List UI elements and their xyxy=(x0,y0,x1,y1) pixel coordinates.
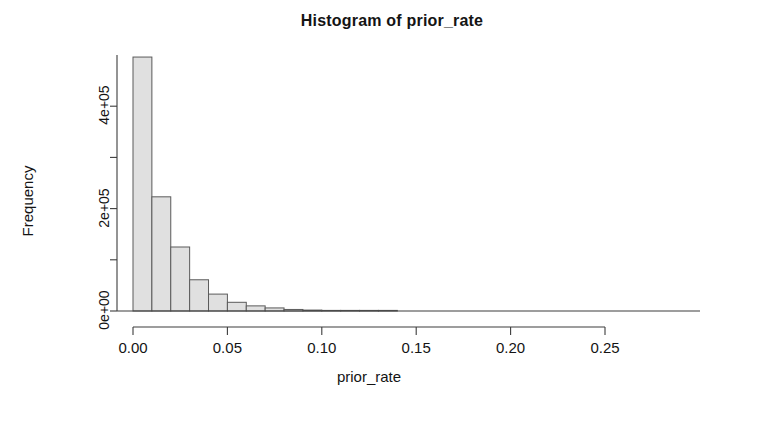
x-tick-label: 0.15 xyxy=(376,339,456,356)
histogram-bar xyxy=(209,294,228,311)
histogram-bar xyxy=(133,57,152,311)
histogram-bar xyxy=(246,306,265,311)
histogram-figure: Histogram of prior_rate Frequency prior_… xyxy=(0,0,784,423)
histogram-bar xyxy=(152,197,171,311)
histogram-bars xyxy=(133,57,397,311)
x-tick-label: 0.00 xyxy=(93,339,173,356)
x-tick-label: 0.10 xyxy=(282,339,362,356)
x-tick-label: 0.20 xyxy=(471,339,551,356)
histogram-bar xyxy=(190,280,209,311)
y-tick-label: 2e+05 xyxy=(96,158,112,258)
chart-canvas xyxy=(0,0,784,423)
x-tick-label: 0.25 xyxy=(565,339,645,356)
histogram-bar xyxy=(171,247,190,311)
y-tick-label: 4e+05 xyxy=(96,55,112,155)
histogram-bar xyxy=(227,302,246,311)
x-tick-label: 0.05 xyxy=(187,339,267,356)
